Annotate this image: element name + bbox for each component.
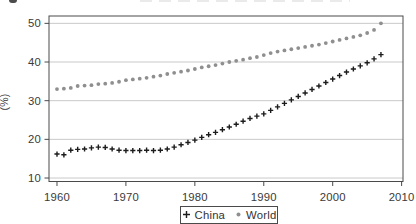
dot-marker-icon: [235, 211, 242, 218]
legend-item-world: World: [235, 209, 276, 221]
y-axis-unit-label: (%): [0, 93, 10, 110]
plus-marker-icon: [182, 210, 191, 219]
chart-plot-area: 1020304050196019701980199020002010 (%): [0, 0, 416, 224]
world-series-dots: [55, 21, 383, 91]
legend-label-world: World: [246, 209, 276, 221]
y-tick-label: 40: [28, 56, 41, 68]
x-tick-label: 2000: [320, 191, 346, 203]
x-tick-label: 1990: [251, 191, 277, 203]
x-tick-label: 1960: [44, 191, 70, 203]
chart-legend: China World: [180, 206, 278, 224]
y-tick-label: 50: [28, 17, 41, 29]
y-tick-label: 10: [28, 172, 41, 184]
x-tick-label: 1970: [113, 191, 139, 203]
horizontal-gridlines: [49, 23, 403, 178]
y-tick-label: 30: [28, 95, 41, 107]
legend-label-china: China: [195, 209, 226, 221]
legend-item-china: China: [182, 209, 226, 221]
axis-ticks: [45, 23, 402, 186]
axis-tick-labels: 1020304050196019701980199020002010: [28, 17, 415, 202]
y-tick-label: 20: [28, 133, 41, 145]
china-series-plus-marks: [54, 52, 383, 157]
x-tick-label: 1980: [182, 191, 208, 203]
figure-urban-population-chart: 1020304050196019701980199020002010 (%) C…: [0, 0, 416, 224]
x-tick-label: 2010: [389, 191, 415, 203]
plot-frame: [49, 16, 403, 182]
